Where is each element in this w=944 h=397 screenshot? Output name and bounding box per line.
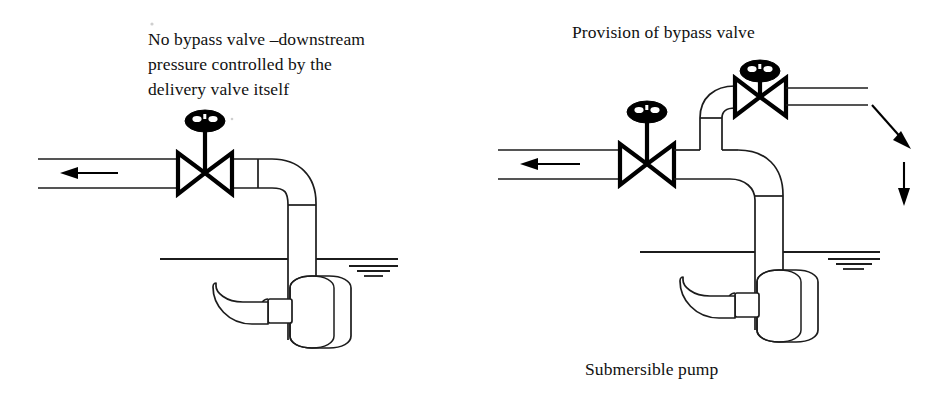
- left-valve-outlet-spool: [231, 159, 272, 188]
- left-caption-line-3: delivery valve itself: [148, 79, 289, 99]
- right-diagram: [498, 60, 911, 342]
- bypass-tee-junction: [674, 150, 738, 179]
- bypass-valve-handwheel[interactable]: [740, 60, 780, 82]
- bypass-outlet-pipe: [786, 88, 868, 105]
- right-submersible-pump: [680, 270, 818, 342]
- left-delivery-valve[interactable]: [178, 110, 232, 194]
- left-valve-handwheel[interactable]: [185, 110, 225, 132]
- figure-root: No bypass valve –downstream pressure con…: [0, 0, 944, 397]
- right-caption: Provision of bypass valve: [572, 22, 755, 42]
- left-diagram: [38, 110, 398, 348]
- right-water-level: [640, 252, 880, 269]
- bypass-valve[interactable]: [735, 60, 786, 116]
- discharge-arrow-vertical: [898, 162, 910, 206]
- left-submersible-pump: [213, 276, 351, 348]
- right-delivery-valve[interactable]: [620, 101, 674, 185]
- discharge-arrow-diagonal: [872, 105, 911, 149]
- left-caption-line-2: pressure controlled by the: [148, 54, 332, 74]
- left-water-level: [160, 259, 398, 276]
- right-flow-arrow: [520, 158, 580, 170]
- bypass-riser-pipe: [700, 118, 722, 150]
- right-delivery-valve-handwheel[interactable]: [627, 101, 667, 123]
- scan-speck: [150, 22, 153, 25]
- left-pump-intake: [213, 283, 268, 324]
- bypass-elbow: [700, 86, 735, 118]
- scan-speck: [231, 118, 234, 121]
- bottom-caption: Submersible pump: [585, 359, 718, 379]
- left-caption-line-1: No bypass valve –downstream: [148, 29, 365, 49]
- right-pump-intake: [680, 277, 735, 318]
- pump-arrangement-diagram: No bypass valve –downstream pressure con…: [0, 0, 944, 397]
- left-flow-arrow: [60, 167, 118, 179]
